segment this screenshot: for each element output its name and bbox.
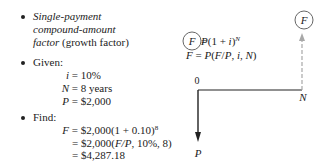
- circled-F-letter: F: [188, 35, 196, 47]
- future-label: F: [300, 14, 308, 26]
- cash-flow-diagram: F = 0 N P F: [0, 0, 323, 168]
- time-end-label: N: [298, 91, 307, 103]
- arrow-head-down-icon: [195, 132, 201, 142]
- arrow-head-up-icon: [299, 33, 305, 41]
- present-label: P: [194, 147, 202, 159]
- time-start-label: 0: [195, 75, 200, 86]
- formula-equals: =: [201, 35, 207, 47]
